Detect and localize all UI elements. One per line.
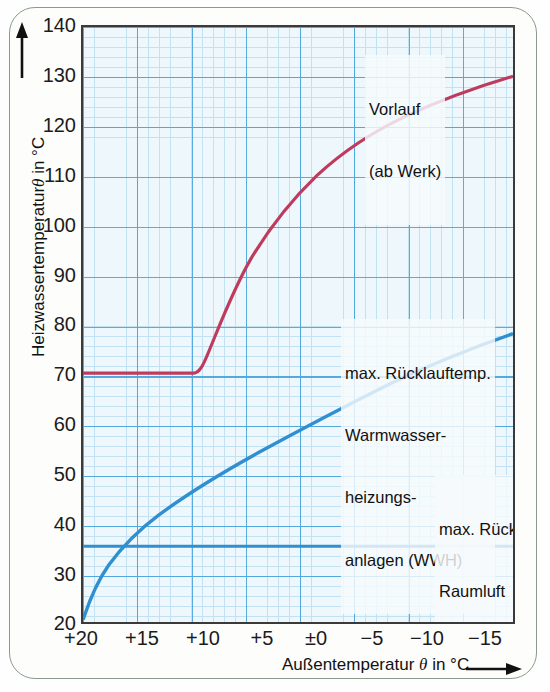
y-tick-50: 50 [38, 464, 76, 484]
x-tick-plus15: +15 [107, 628, 177, 648]
x-axis-title-theta: θ [419, 655, 427, 674]
y-tick-40: 40 [38, 514, 76, 534]
x-tick-minus15: −15 [450, 628, 520, 648]
x-axis-title-text: Außentemperatur [282, 655, 414, 674]
y-axis-title-unit: in °C [29, 137, 48, 174]
x-axis-title: Außentemperatur θ in °C [282, 655, 469, 675]
x-tick-plus20: +20 [46, 628, 116, 648]
annotation-wwh-line2: Warmwasser- [345, 425, 491, 446]
x-axis-tick-labels: +20 +15 +10 +5 ±0 −5 −10 −15 [0, 628, 550, 658]
y-axis-title: Heizwassertemperaturθ in °C [29, 27, 49, 357]
y-axis-title-wrap: Heizwassertemperaturθ in °C [6, 22, 40, 382]
x-axis-title-unit: in °C [432, 655, 469, 674]
figure-root: Vorlauf (ab Werk) max. Rücklauftemp. War… [0, 0, 550, 692]
y-tick-60: 60 [38, 414, 76, 434]
y-tick-70: 70 [38, 364, 76, 384]
annotation-vorlauf-line1: Vorlauf [369, 99, 441, 120]
y-axis-title-theta: θ [29, 179, 48, 187]
annotation-rlt-line2: Raumluft [439, 581, 515, 602]
y-axis-title-text: Heizwassertemperatur [29, 187, 48, 357]
y-tick-30: 30 [38, 564, 76, 584]
annotation-vorlauf: Vorlauf (ab Werk) [365, 55, 445, 225]
plot-area: Vorlauf (ab Werk) max. Rücklauftemp. War… [81, 25, 515, 624]
annotation-rlt: max. Rücklauftemp. Raumluft technische A… [435, 475, 515, 624]
annotation-wwh-line1: max. Rücklauftemp. [345, 363, 491, 384]
x-axis-arrow-icon [466, 661, 522, 681]
annotation-rlt-line1: max. Rücklauftemp. [439, 519, 515, 540]
annotation-vorlauf-line2: (ab Werk) [369, 161, 441, 182]
